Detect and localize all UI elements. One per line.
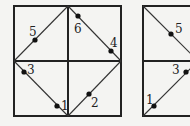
diagonal-top-left — [14, 6, 68, 61]
label-1-right: 1 — [146, 93, 154, 107]
label-6: 6 — [74, 22, 82, 36]
point-6 — [75, 13, 80, 18]
diagonal-bottom-left — [14, 61, 68, 116]
right-square-figure: 5 3 1 — [143, 6, 190, 116]
label-2: 2 — [91, 96, 99, 110]
left-square-figure: 5 6 4 3 1 2 — [14, 6, 121, 116]
diagonal-top — [143, 6, 190, 61]
label-3-right: 3 — [172, 63, 180, 77]
label-3: 3 — [27, 63, 35, 77]
point-3 — [21, 69, 26, 74]
label-4: 4 — [110, 36, 118, 50]
point-3-right — [183, 69, 188, 74]
diagram-canvas: 5 6 4 3 1 2 5 3 1 — [0, 0, 190, 126]
diagonal-bottom — [143, 61, 190, 116]
point-5-right — [168, 31, 173, 36]
point-1 — [54, 103, 59, 108]
label-5-right: 5 — [175, 22, 183, 36]
label-1: 1 — [61, 99, 69, 113]
label-5: 5 — [29, 25, 37, 39]
